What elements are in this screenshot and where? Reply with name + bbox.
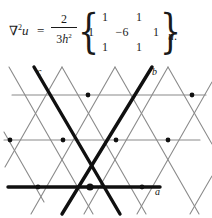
trailing-operand: u. [168,30,177,42]
denominator-exponent: 2 [68,32,72,40]
matrix-cell: 1 [97,40,113,54]
operand-u: u [22,23,29,38]
fraction-numerator: 2 [50,13,78,26]
label-b: b [152,67,157,77]
matrix-cell: 1 [97,10,113,24]
matrix-row: 1 1 [86,40,162,54]
fraction-denominator: 3h2 [50,29,78,46]
trailing-period: . [174,29,177,43]
equation-block: ∇2u = 2 3h2 { 1 1 1 −6 1 [0,0,212,62]
grid-line-diagonal-down [4,132,44,202]
laplacian-operator: ∇2u [9,24,29,37]
triangular-lattice-diagram: c b a [0,62,212,218]
fraction-bar [51,27,77,28]
grid-line-diagonal-up [5,67,62,167]
label-a: a [155,187,160,197]
lattice-node [140,185,145,190]
lattice-node [8,138,13,143]
fraction: 2 3h2 [50,13,78,46]
figure-page: ∇2u = 2 3h2 { 1 1 1 −6 1 [0,0,212,218]
label-c: c [37,67,41,77]
lattice-svg [0,62,212,218]
matrix-row: 1 −6 1 [86,25,162,39]
matrix-cell-center: −6 [114,25,130,39]
matrix-cell: 1 [83,25,99,39]
matrix-cell: 1 [131,40,147,54]
stencil-matrix: 1 1 1 −6 1 1 1 [86,10,162,54]
matrix-cell: 1 [131,10,147,24]
matrix-row: 1 1 [86,10,162,24]
grid-line-diagonal-down [168,67,212,144]
lattice-node [190,93,195,98]
lattice-node [114,138,119,143]
nabla-symbol: ∇ [9,23,18,38]
grid-line-diagonal-up [190,176,212,214]
lattice-node [61,138,66,143]
lattice-node [166,138,171,143]
lattice-node [36,185,41,190]
lattice-node [86,93,91,98]
lattice-nodes [8,93,195,191]
equals-sign: = [37,24,44,37]
lattice-node-hub [86,183,93,190]
